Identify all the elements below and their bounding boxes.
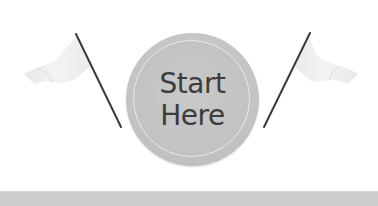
badge-label-line2: Here <box>160 100 224 132</box>
left-flag-icon <box>24 34 121 127</box>
badge-label: Start Here <box>126 33 259 166</box>
bottom-divider-bar <box>0 191 378 206</box>
right-flag-icon <box>264 33 358 127</box>
badge-label-line1: Start <box>160 68 226 100</box>
start-here-button[interactable]: Start Here <box>126 33 259 166</box>
start-here-banner: Start Here <box>0 0 378 206</box>
